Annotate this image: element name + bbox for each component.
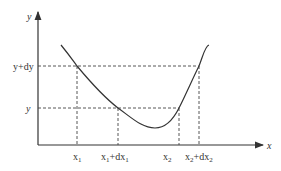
xtick-x2: x2 xyxy=(163,151,172,164)
ytick-y: y xyxy=(25,103,31,114)
diagram-svg: y x y+dy y x1 x1+dx1 x2 x2+dx2 xyxy=(0,0,281,171)
x-axis-label: x xyxy=(266,140,272,151)
diagram-canvas: y x y+dy y x1 x1+dx1 x2 x2+dx2 xyxy=(0,0,281,171)
xtick-x2-dx2: x2+dx2 xyxy=(185,151,213,164)
ytick-y-plus-dy: y+dy xyxy=(13,61,34,72)
y-axis-label: y xyxy=(26,11,32,22)
xtick-x1: x1 xyxy=(73,151,82,164)
xtick-x1-dx1: x1+dx1 xyxy=(101,151,129,164)
function-curve xyxy=(61,45,209,128)
